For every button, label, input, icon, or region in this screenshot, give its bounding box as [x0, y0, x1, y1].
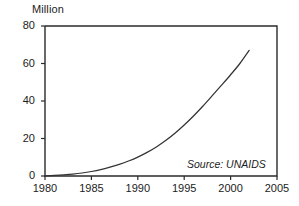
x-axis-tick-label: 1985	[69, 183, 113, 194]
chart-figure: Million 020406080 1980198519901995200020…	[0, 0, 299, 206]
source-annotation: Source: UNAIDS	[187, 158, 266, 170]
x-axis-tick-label: 1990	[116, 183, 160, 194]
y-axis-tick-label: 60	[9, 58, 35, 69]
y-axis-tick-label: 80	[9, 20, 35, 31]
data-series-line	[45, 50, 249, 175]
x-axis-tick-label: 1980	[23, 183, 67, 194]
x-axis-tick-label: 2005	[255, 183, 299, 194]
x-axis-tick-label: 2000	[209, 183, 253, 194]
y-axis-tick-label: 40	[9, 95, 35, 106]
y-axis-tick-label: 20	[9, 133, 35, 144]
y-axis-tick-label: 0	[9, 170, 35, 181]
axis-frame	[45, 26, 277, 176]
x-axis-tick-label: 1995	[162, 183, 206, 194]
plot-area	[0, 0, 299, 206]
